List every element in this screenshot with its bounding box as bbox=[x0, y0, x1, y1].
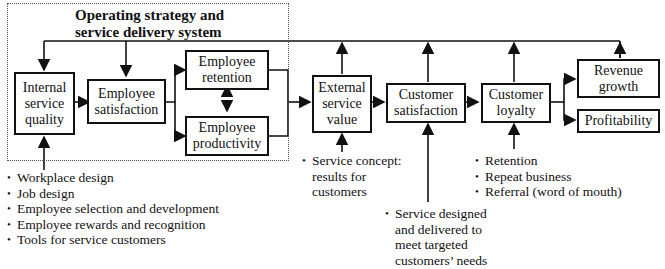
list-item: Employee selection and development bbox=[7, 201, 219, 217]
node-internal-service-quality: Internal service quality bbox=[14, 72, 75, 135]
group-title: Operating strategy and service delivery … bbox=[75, 7, 224, 41]
node-label: Revenue growth bbox=[579, 63, 658, 95]
node-label: Employee retention bbox=[187, 54, 267, 86]
list-item: Referral (word of mouth) bbox=[475, 184, 622, 200]
list-item: Job design bbox=[7, 186, 219, 202]
service-concept-note: Service concept: results for customers bbox=[302, 153, 402, 200]
node-external-service-value: External service value bbox=[312, 75, 372, 133]
node-profitability: Profitability bbox=[577, 109, 660, 133]
note-line: meet targeted bbox=[395, 237, 487, 253]
node-revenue-growth: Revenue growth bbox=[577, 59, 660, 98]
list-item: Tools for service customers bbox=[7, 232, 219, 248]
node-employee-retention: Employee retention bbox=[185, 50, 269, 90]
node-label: Customer loyalty bbox=[483, 87, 549, 119]
node-label: Employee satisfaction bbox=[89, 86, 164, 118]
note-line: Service designed bbox=[395, 206, 487, 222]
list-item: Repeat business bbox=[475, 169, 622, 185]
node-employee-productivity: Employee productivity bbox=[185, 116, 269, 156]
node-customer-loyalty: Customer loyalty bbox=[481, 83, 551, 123]
node-label: Internal service quality bbox=[16, 80, 73, 128]
note-line: customers’ needs bbox=[395, 253, 487, 269]
note-line: and delivered to bbox=[395, 222, 487, 238]
list-item: Employee rewards and recognition bbox=[7, 217, 219, 233]
node-employee-satisfaction: Employee satisfaction bbox=[87, 79, 166, 124]
note-line: customers bbox=[312, 184, 402, 200]
note-line: results for bbox=[312, 169, 402, 185]
internal-quality-inputs-list: Workplace design Job design Employee sel… bbox=[7, 170, 219, 248]
list-item: Service concept: results for customers bbox=[302, 153, 402, 200]
list-item: Retention bbox=[475, 153, 622, 169]
node-label: Employee productivity bbox=[187, 120, 267, 152]
loyalty-outcomes-list: Retention Repeat business Referral (word… bbox=[475, 153, 622, 200]
note-line: Service concept: bbox=[312, 153, 402, 169]
service-design-note: Service designed and delivered to meet t… bbox=[385, 206, 487, 268]
node-label: Profitability bbox=[585, 113, 653, 129]
list-item: Workplace design bbox=[7, 170, 219, 186]
group-title-line1: Operating strategy and bbox=[75, 7, 224, 24]
node-label: Customer satisfaction bbox=[388, 87, 464, 119]
node-label: External service value bbox=[314, 80, 370, 128]
node-customer-satisfaction: Customer satisfaction bbox=[386, 83, 466, 123]
list-item: Service designed and delivered to meet t… bbox=[385, 206, 487, 268]
group-title-line2: service delivery system bbox=[75, 24, 224, 41]
